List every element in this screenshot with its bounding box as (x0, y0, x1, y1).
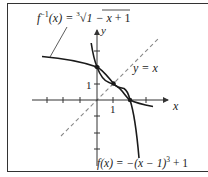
function-label: f(x) = −(x − 1)3 + 1 (97, 155, 188, 170)
graph-figure: f−1(x) = 3√1 − x + 1 y x y = x 1 1 f(x) … (0, 0, 208, 177)
y-tick-label: 1 (86, 79, 92, 91)
x-axis-label: x (172, 99, 179, 113)
inverse-leader-line (50, 27, 67, 57)
y-axis-label: y (100, 24, 106, 36)
x-tick-label: 1 (110, 103, 116, 115)
identity-label: y = x (132, 61, 158, 75)
inverse-label: f−1(x) = 3√1 − x + 1 (37, 10, 131, 25)
identity-line (61, 37, 160, 136)
graph-canvas: f−1(x) = 3√1 − x + 1 y x y = x 1 1 f(x) … (0, 0, 208, 177)
